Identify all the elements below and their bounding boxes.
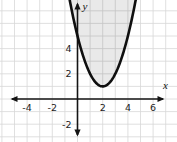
y-tick-label: 4 bbox=[65, 43, 71, 54]
x-tick-label: 2 bbox=[100, 102, 106, 113]
graph-figure: -4-224642-2xy bbox=[0, 0, 177, 142]
x-tick-label: 4 bbox=[125, 102, 131, 113]
x-tick-label: -2 bbox=[48, 102, 57, 113]
y-tick-label: 2 bbox=[65, 68, 71, 79]
x-tick-label: 6 bbox=[150, 102, 156, 113]
y-tick-label: -2 bbox=[62, 119, 71, 130]
x-axis-label: x bbox=[162, 79, 168, 91]
x-tick-label: -4 bbox=[22, 102, 31, 113]
parabola-graph-svg: -4-224642-2xy bbox=[0, 0, 177, 142]
y-axis-label: y bbox=[82, 0, 88, 12]
